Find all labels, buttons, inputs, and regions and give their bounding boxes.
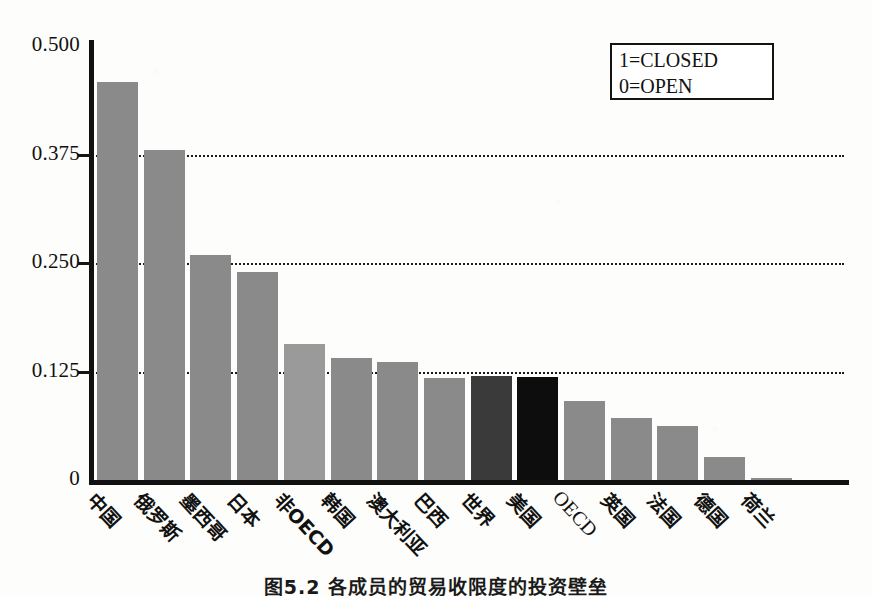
- legend-entry-open: 0=OPEN: [619, 73, 766, 99]
- figure-caption-text: 图5.2 各成员的贸易收限度的投资壁垒: [0, 576, 872, 596]
- bar: [97, 82, 138, 480]
- bar: [517, 377, 558, 480]
- y-tick-label: 0: [69, 466, 80, 491]
- x-axis-label: OECD: [548, 486, 602, 542]
- bar: [424, 378, 465, 480]
- x-axis-label: 俄罗斯: [129, 486, 188, 546]
- bar: [331, 358, 372, 480]
- bar: [190, 255, 231, 480]
- bar: [144, 150, 185, 480]
- y-tick-label: 0.125: [32, 358, 80, 383]
- x-axis-label: 美国: [503, 486, 549, 532]
- bar: [377, 362, 418, 480]
- bar: [284, 344, 325, 480]
- legend-box: 1=CLOSED 0=OPEN: [610, 43, 774, 100]
- plot-area: 0.5000.3750.2500.1250: [96, 46, 844, 480]
- bar: [237, 272, 278, 480]
- y-tick-label: 0.250: [32, 249, 80, 274]
- x-axis-label: 中国: [82, 486, 128, 532]
- y-tick-label: 0.375: [32, 141, 80, 166]
- y-axis-spine: [89, 40, 94, 482]
- x-axis-category-labels: 中国俄罗斯墨西哥日本非OECD韩国澳大利亚巴西世界美国OECD英国法国德国荷兰: [96, 486, 856, 586]
- x-axis-label: 法国: [643, 486, 689, 532]
- bar: [611, 418, 652, 480]
- y-axis-labels: 0.5000.3750.2500.1250: [0, 46, 80, 480]
- x-axis-label: 英国: [596, 486, 642, 532]
- x-axis-label: 墨西哥: [176, 486, 235, 546]
- legend-entry-closed: 1=CLOSED: [619, 47, 766, 73]
- bar: [657, 426, 698, 480]
- x-axis-baseline: [89, 480, 849, 485]
- bar: [471, 376, 512, 480]
- bar-series: [96, 46, 844, 480]
- x-axis-label: 世界: [456, 486, 502, 532]
- bar: [564, 401, 605, 480]
- bar: [751, 478, 792, 480]
- figure-caption: 图5.2 各成员的贸易收限度的投资壁垒: [0, 576, 872, 596]
- x-axis-label: 德国: [689, 486, 735, 532]
- figure-chart: 0.5000.3750.2500.1250 中国俄罗斯墨西哥日本非OECD韩国澳…: [0, 0, 872, 596]
- y-tick-label: 0.500: [32, 32, 80, 57]
- bar: [704, 457, 745, 480]
- x-axis-label: 荷兰: [736, 486, 782, 532]
